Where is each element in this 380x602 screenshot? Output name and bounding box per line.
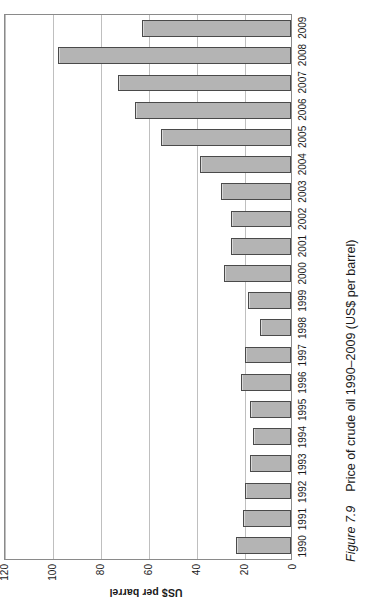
bar-2003: [221, 183, 291, 200]
bar-slot: [5, 205, 291, 232]
y-axis-title: US$ per barrel: [0, 586, 292, 600]
bar-1992: [245, 483, 291, 500]
x-tick-slot: 2004: [294, 151, 328, 178]
bar-series: [5, 15, 291, 559]
x-tick-slot: 1995: [294, 396, 328, 423]
y-axis-tick-labels: 020406080100120: [0, 562, 292, 586]
bar-1990: [236, 537, 291, 554]
x-tick-slot: 1997: [294, 342, 328, 369]
bar-2006: [135, 102, 291, 119]
bar-chart: US$ per barrel 020406080100120 199019911…: [0, 0, 330, 602]
bar-slot: [5, 178, 291, 205]
rotated-figure-wrapper: US$ per barrel 020406080100120 199019911…: [0, 0, 380, 602]
x-tick-slot: 1993: [294, 451, 328, 478]
bar-1997: [245, 347, 291, 364]
x-tick-slot: 2007: [294, 69, 328, 96]
bar-1998: [260, 319, 291, 336]
y-tick-label-60: 60: [143, 564, 154, 575]
bar-slot: [5, 341, 291, 368]
x-tick-slot: 2005: [294, 123, 328, 150]
figure-caption-text: Price of crude oil 1990–2009 (US$ per ba…: [344, 240, 358, 492]
bar-slot: [5, 151, 291, 178]
y-tick-label-0: 0: [287, 564, 298, 570]
y-tick-label-120: 120: [0, 564, 10, 581]
x-tick-label-2001: 2001: [294, 235, 308, 257]
figure-number: Figure 7.9: [344, 506, 358, 562]
x-tick-label-1995: 1995: [294, 399, 308, 421]
bar-2002: [231, 211, 291, 228]
x-tick-slot: 2001: [294, 232, 328, 259]
bar-2001: [231, 238, 291, 255]
y-tick-label-80: 80: [95, 564, 106, 575]
bar-2000: [224, 265, 291, 282]
x-tick-slot: 2006: [294, 96, 328, 123]
bar-slot: [5, 69, 291, 96]
bar-2005: [161, 129, 291, 146]
x-tick-slot: 1990: [294, 533, 328, 560]
plot-area: [4, 14, 292, 560]
x-tick-slot: 1998: [294, 314, 328, 341]
bar-slot: [5, 532, 291, 559]
x-tick-slot: 2000: [294, 260, 328, 287]
figure-caption: Figure 7.9 Price of crude oil 1990–2009 …: [344, 22, 358, 562]
x-tick-label-1990: 1990: [294, 535, 308, 557]
x-tick-label-2004: 2004: [294, 153, 308, 175]
bar-1999: [248, 292, 291, 309]
x-tick-label-2009: 2009: [294, 17, 308, 39]
y-tick-label-100: 100: [47, 564, 58, 581]
bar-slot: [5, 287, 291, 314]
x-tick-label-2000: 2000: [294, 262, 308, 284]
bar-1994: [253, 428, 291, 445]
x-tick-slot: 2008: [294, 41, 328, 68]
bar-1993: [250, 455, 291, 472]
bar-2004: [200, 156, 291, 173]
x-tick-label-2007: 2007: [294, 71, 308, 93]
bar-2008: [58, 47, 291, 64]
x-tick-slot: 2003: [294, 178, 328, 205]
x-tick-label-1994: 1994: [294, 426, 308, 448]
x-tick-label-2006: 2006: [294, 98, 308, 120]
x-tick-label-2005: 2005: [294, 126, 308, 148]
bar-2007: [118, 75, 291, 92]
bar-slot: [5, 233, 291, 260]
y-axis-title-label: US$ per barrel: [109, 587, 182, 599]
x-tick-slot: 1999: [294, 287, 328, 314]
x-tick-slot: 1994: [294, 424, 328, 451]
bar-slot: [5, 97, 291, 124]
x-tick-label-1996: 1996: [294, 371, 308, 393]
x-tick-slot: 2009: [294, 14, 328, 41]
bar-slot: [5, 260, 291, 287]
bar-slot: [5, 42, 291, 69]
bar-slot: [5, 423, 291, 450]
bar-1991: [243, 510, 291, 527]
bar-slot: [5, 477, 291, 504]
bar-slot: [5, 124, 291, 151]
y-tick-label-40: 40: [191, 564, 202, 575]
x-tick-label-1998: 1998: [294, 317, 308, 339]
x-tick-label-2002: 2002: [294, 208, 308, 230]
bar-2009: [142, 20, 291, 37]
bar-slot: [5, 450, 291, 477]
x-tick-label-1993: 1993: [294, 453, 308, 475]
x-axis-tick-labels: 1990199119921993199419951996199719981999…: [294, 14, 328, 560]
figure: US$ per barrel 020406080100120 199019911…: [0, 0, 380, 602]
bar-1995: [250, 401, 291, 418]
x-tick-slot: 1996: [294, 369, 328, 396]
x-tick-label-2008: 2008: [294, 44, 308, 66]
x-tick-label-1999: 1999: [294, 290, 308, 312]
x-tick-slot: 1992: [294, 478, 328, 505]
y-tick-label-20: 20: [239, 564, 250, 575]
x-tick-label-2003: 2003: [294, 180, 308, 202]
x-tick-slot: 2002: [294, 205, 328, 232]
bar-slot: [5, 314, 291, 341]
x-tick-slot: 1991: [294, 505, 328, 532]
bar-1996: [241, 374, 291, 391]
bar-slot: [5, 505, 291, 532]
bar-slot: [5, 15, 291, 42]
bar-slot: [5, 369, 291, 396]
x-tick-label-1991: 1991: [294, 508, 308, 530]
figure-page: US$ per barrel 020406080100120 199019911…: [0, 0, 380, 602]
x-tick-label-1997: 1997: [294, 344, 308, 366]
x-tick-label-1992: 1992: [294, 481, 308, 503]
bar-slot: [5, 396, 291, 423]
